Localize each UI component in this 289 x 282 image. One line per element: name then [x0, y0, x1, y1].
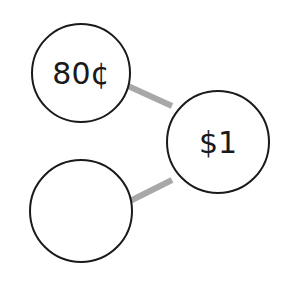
node-bottom-left[interactable]: [30, 160, 132, 262]
node-top-left: 80¢: [32, 24, 130, 122]
edge-bottom-left-to-right: [128, 180, 172, 202]
node-top-left-label: 80¢: [52, 56, 109, 91]
number-bond-diagram: 80¢ $1: [0, 0, 289, 282]
node-right: $1: [167, 91, 269, 193]
node-right-label: $1: [199, 125, 237, 160]
edge-top-left-to-right: [128, 86, 172, 106]
